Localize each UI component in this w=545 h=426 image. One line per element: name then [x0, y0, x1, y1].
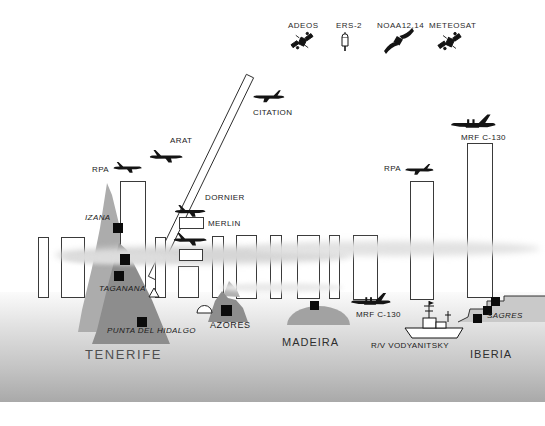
- satellite-label-noaa: NOAA12,14: [377, 21, 424, 30]
- instrument-box: [179, 217, 204, 229]
- place-label-tenerife: TENERIFE: [85, 347, 162, 362]
- station-marker: [120, 254, 130, 265]
- rpa-aircraft-icon: [112, 161, 143, 174]
- rpa-aircraft-icon: [404, 163, 435, 176]
- place-label-iberia: IBERIA: [470, 348, 512, 360]
- place-label-azores: AZORES: [210, 320, 251, 330]
- aircraft-label-citation: CITATION: [253, 108, 292, 117]
- noaa-satellite-icon: [382, 27, 416, 55]
- campaign-platforms-diagram: ADEOS ERS-2 NOAA12,14 METEOSAT CITATION …: [0, 0, 545, 426]
- instrument-box: [179, 249, 203, 261]
- adeos-satellite-icon: [290, 30, 314, 53]
- cloud-layer: [218, 283, 343, 292]
- satellite-label-adeos: ADEOS: [288, 21, 319, 30]
- aircraft-label-arat: ARAT: [170, 136, 192, 145]
- measurement-column: [178, 266, 199, 298]
- ship-label-sagres: SAGRES: [487, 311, 523, 320]
- station-marker-izana: [113, 223, 123, 233]
- aircraft-label-rpa-left: RPA: [92, 165, 109, 174]
- merlin-aircraft-icon: [169, 232, 211, 247]
- station-label-taganana: TAGANANA: [99, 284, 146, 293]
- aircraft-label-dornier: DORNIER: [205, 193, 245, 202]
- observatory-dome-icon: [196, 304, 213, 314]
- arat-aircraft-icon: [146, 149, 186, 164]
- mrf-c130-aircraft-icon: [449, 113, 498, 133]
- aircraft-label-c130-low: MRF C-130: [356, 310, 401, 319]
- ship-label-vodyanitsky: R/V VODYANITSKY: [371, 341, 449, 350]
- citation-aircraft-icon: [252, 89, 286, 104]
- aircraft-label-rpa-right: RPA: [384, 164, 401, 173]
- station-marker-azores: [221, 305, 232, 316]
- tent-marker-icon: [148, 287, 160, 298]
- cloud-layer: [250, 241, 540, 256]
- aircraft-label-merlin: MERLIN: [208, 219, 241, 228]
- measurement-column-c130: [467, 143, 493, 298]
- satellite-label-ers2: ERS-2: [336, 21, 362, 30]
- station-label-punta: PUNTA DEL HIDALGO: [107, 326, 196, 335]
- meteosat-satellite-icon: [436, 30, 463, 54]
- satellite-label-meteosat: METEOSAT: [429, 21, 476, 30]
- station-marker-sagres: [491, 297, 500, 306]
- mrf-c130-aircraft-icon: [349, 292, 393, 309]
- station-marker-iberia: [473, 314, 482, 323]
- aircraft-label-c130-top: MRF C-130: [461, 133, 506, 142]
- station-marker-taganana: [114, 271, 124, 281]
- measurement-column: [38, 237, 49, 298]
- dornier-aircraft-icon: [170, 204, 210, 218]
- station-label-izana: IZANA: [85, 213, 111, 222]
- measurement-column: [61, 237, 85, 298]
- research-vessel-icon: [402, 298, 466, 341]
- station-marker-madeira: [310, 301, 319, 310]
- place-label-madeira: MADEIRA: [282, 336, 339, 348]
- ers2-satellite-icon: [338, 30, 352, 53]
